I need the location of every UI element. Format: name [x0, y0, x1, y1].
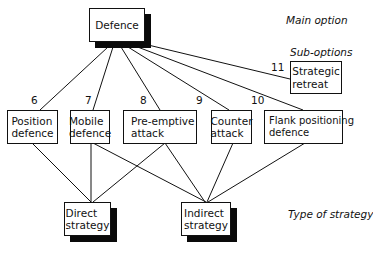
- node-counter-attack: Counter attack: [211, 110, 252, 144]
- node-direct-strategy: Direct strategy: [64, 202, 111, 236]
- node-strategic-retreat-label: Strategic retreat: [292, 65, 339, 90]
- line1: Direct: [66, 207, 97, 219]
- node-preemptive-attack-label: Pre-emptive attack: [131, 115, 195, 140]
- node-defence-label: Defence: [95, 19, 139, 32]
- level-label-main-option: Main option: [286, 14, 348, 26]
- line2: retreat: [292, 78, 328, 90]
- line2: strategy: [184, 219, 228, 231]
- edge-flank-indirect: [208, 143, 305, 202]
- line1: Strategic: [292, 65, 339, 77]
- level-label-type-of-strategy: Type of strategy: [288, 208, 373, 220]
- edge-position-direct: [32, 143, 91, 202]
- node-strategic-retreat: Strategic retreat: [290, 61, 342, 94]
- line2: attack: [131, 127, 164, 139]
- line1: Position: [11, 115, 52, 127]
- node-flank-positioning-defence: Flank positioning defence: [264, 110, 343, 144]
- node-mobile-defence: Mobile defence: [70, 110, 110, 144]
- line1: Counter: [211, 115, 253, 127]
- edge-defence-retreat: [144, 44, 290, 79]
- edge-preemptive-indirect: [165, 143, 205, 202]
- line1: Indirect: [184, 207, 224, 219]
- node-mobile-defence-label: Mobile defence: [69, 115, 111, 140]
- line2: defence: [11, 127, 53, 139]
- line1: Mobile: [69, 115, 103, 127]
- number-11: 11: [271, 61, 284, 73]
- line2: defence: [269, 127, 309, 138]
- edge-mobile-indirect: [93, 143, 206, 202]
- edge-counter-indirect: [207, 143, 233, 202]
- line2: strategy: [66, 219, 110, 231]
- node-preemptive-attack: Pre-emptive attack: [123, 110, 197, 144]
- edge-defence-mobile: [93, 47, 113, 110]
- node-position-defence: Position defence: [7, 110, 58, 144]
- number-8: 8: [140, 94, 147, 106]
- number-9: 9: [196, 94, 203, 106]
- number-6: 6: [31, 94, 38, 106]
- line2: defence: [69, 127, 111, 139]
- node-flank-positioning-defence-label: Flank positioning defence: [269, 115, 354, 140]
- node-indirect-strategy-label: Indirect strategy: [184, 207, 228, 232]
- node-counter-attack-label: Counter attack: [211, 115, 253, 140]
- node-indirect-strategy: Indirect strategy: [181, 202, 231, 236]
- node-position-defence-label: Position defence: [11, 115, 53, 140]
- edge-defence-position: [40, 47, 108, 110]
- level-label-sub-options: Sub-options: [290, 46, 352, 58]
- edge-preemptive-direct: [93, 143, 165, 202]
- line1: Flank positioning: [269, 115, 354, 126]
- line2: attack: [211, 127, 244, 139]
- edge-defence-flank: [135, 46, 303, 110]
- number-7: 7: [85, 94, 92, 106]
- number-10: 10: [251, 94, 264, 106]
- line1: Pre-emptive: [131, 115, 195, 127]
- node-direct-strategy-label: Direct strategy: [66, 207, 110, 232]
- node-defence: Defence: [89, 8, 145, 42]
